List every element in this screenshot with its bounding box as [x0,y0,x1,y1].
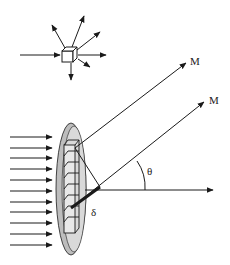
inset-outgoing-arrows [52,16,106,80]
inset-cube [62,47,77,62]
incident-beam [10,137,52,245]
scattered-rays [71,63,213,208]
angle-label: θ [147,166,152,177]
ray-upper-label: M [190,56,200,67]
scatter-inset [20,16,106,80]
angle-arc [137,161,145,190]
ray-lower-label: M [209,95,219,106]
diffraction-diagram [0,0,230,265]
path-difference-label: δ [91,207,96,218]
ray-upper [75,63,186,148]
